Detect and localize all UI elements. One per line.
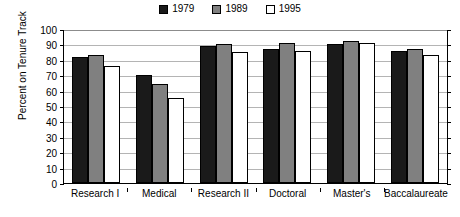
y-axis-tick-right (447, 76, 451, 77)
y-axis-tick-right (447, 45, 451, 46)
y-axis-tick-right (447, 122, 451, 123)
x-axis-tick (384, 188, 385, 192)
bar (327, 44, 343, 183)
x-axis-labels: Research IMedicalResearch IIDoctoralMast… (63, 188, 448, 199)
y-axis-tick-right (447, 92, 451, 93)
bar (200, 46, 216, 183)
bar (295, 51, 311, 183)
y-axis-tick-label: 40 (46, 117, 57, 128)
x-axis-label: Master's (320, 188, 384, 199)
y-axis-tick-label: 80 (46, 55, 57, 66)
x-axis-label: Research II (191, 188, 255, 199)
black-square-icon (159, 5, 168, 14)
y-axis-tick-label: 90 (46, 40, 57, 51)
legend-label: 1979 (172, 4, 194, 14)
gray-square-icon (212, 5, 221, 14)
white-square-icon (266, 5, 275, 14)
bar-group (192, 30, 256, 183)
bar-chart: 197919891995 Percent on Tenure Track 100… (0, 0, 460, 217)
bar (407, 49, 423, 183)
y-axis-tick-label: 70 (46, 71, 57, 82)
legend-item: 1989 (212, 4, 247, 14)
bar-group (319, 30, 383, 183)
y-axis-tick-right (447, 153, 451, 154)
x-axis-label: Medical (127, 188, 191, 199)
x-axis-tick (320, 188, 321, 192)
bars-layer (64, 30, 447, 183)
bar (279, 43, 295, 183)
legend-item: 1979 (159, 4, 194, 14)
bar-group (64, 30, 128, 183)
y-axis-tick-right (447, 61, 451, 62)
y-axis-tick-label: 10 (46, 163, 57, 174)
y-axis-tick-label: 100 (40, 25, 57, 36)
bar (232, 52, 248, 183)
y-axis-title: Percent on Tenure Track (17, 0, 28, 146)
bar (152, 84, 168, 183)
bar (88, 55, 104, 183)
bar (136, 75, 152, 183)
y-axis-tick-label: 60 (46, 86, 57, 97)
y-axis-tick-right (447, 138, 451, 139)
y-axis-tick-label: 30 (46, 132, 57, 143)
x-axis-tick (127, 188, 128, 192)
bar (423, 55, 439, 183)
bar-group (383, 30, 447, 183)
y-axis-tick-label: 0 (51, 179, 57, 190)
bar (343, 41, 359, 183)
bar (168, 98, 184, 183)
bar (391, 51, 407, 183)
y-axis-tick-label: 50 (46, 102, 57, 113)
legend-label: 1989 (225, 4, 247, 14)
bar (359, 43, 375, 183)
legend-label: 1995 (279, 4, 301, 14)
legend-item: 1995 (266, 4, 301, 14)
bar (216, 44, 232, 183)
bar-group (128, 30, 192, 183)
y-axis-tick (60, 184, 64, 185)
y-axis-tick-right (447, 30, 451, 31)
x-axis-tick (191, 188, 192, 192)
x-axis-label: Baccalaureate (384, 188, 448, 199)
chart-legend: 197919891995 (0, 4, 460, 14)
y-axis-tick-right (447, 169, 451, 170)
x-axis-label: Doctoral (256, 188, 320, 199)
bar (263, 49, 279, 183)
plot-area: 1009080706050403020100 (63, 30, 448, 184)
x-axis-tick (256, 188, 257, 192)
bar (104, 66, 120, 183)
y-axis-tick-right (447, 107, 451, 108)
bar (72, 57, 88, 183)
y-axis-tick-right (447, 184, 451, 185)
bar-group (255, 30, 319, 183)
y-axis-tick-label: 20 (46, 148, 57, 159)
x-axis-label: Research I (63, 188, 127, 199)
